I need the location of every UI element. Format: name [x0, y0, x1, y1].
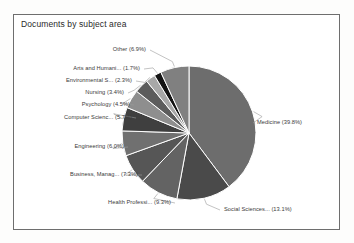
pie-slice-label: Computer Scienc... (5.7%) [14, 114, 132, 120]
pie-slice-label: Other (6.9%) [14, 46, 146, 52]
leader-line [150, 50, 174, 67]
pie-slice-label: Social Sciences... (13.1%) [224, 206, 292, 212]
pie-slice-label: Medicine (39.8%) [257, 119, 302, 125]
chart-card: Documents by subject area Medicine (39.8… [13, 14, 340, 230]
pie-slice-label: Psychology (4.5%) [14, 101, 130, 107]
pie-slice-label: Engineering (6.0%) [14, 143, 124, 149]
leader-line [205, 199, 221, 210]
pie-slices[interactable] [122, 66, 256, 200]
screenshot-canvas: Documents by subject area Medicine (39.8… [0, 0, 354, 243]
leader-line [144, 68, 157, 73]
pie-slice-label: Environmental S... (2.3%) [14, 77, 132, 83]
pie-slice-label: Nursing (3.4%) [14, 89, 124, 95]
pie-slice-label: Business, Manag... (7.3%) [14, 171, 138, 177]
pie-slice-label: Health Professi... (9.3%) [14, 199, 171, 205]
pie-slice-label: Arts and Humani... (1.7%) [14, 65, 140, 71]
